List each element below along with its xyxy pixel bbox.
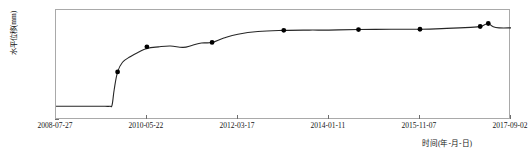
plot-area (55, 9, 510, 119)
x-tick-label: 2010-05-22 (103, 121, 189, 130)
x-tick-label: 2014-01-11 (285, 121, 371, 130)
displacement-line-chart (56, 10, 511, 120)
x-tick-mark (237, 115, 238, 119)
x-tick-label: 2017-09-02 (467, 121, 532, 130)
data-point-marker (478, 24, 483, 29)
data-point-marker (115, 69, 120, 74)
data-line-series (56, 23, 511, 106)
data-point-marker (486, 21, 491, 26)
x-tick-label: 2012-03-17 (194, 121, 280, 130)
data-point-marker (144, 44, 149, 49)
x-tick-label: 2015-11-07 (376, 121, 462, 130)
data-point-marker (210, 40, 215, 45)
y-axis-title: 水平位移(mm) (7, 0, 21, 73)
data-point-marker (356, 27, 361, 32)
x-tick-mark (419, 115, 420, 119)
x-tick-mark (328, 115, 329, 119)
x-axis-title: 时间(年-月-日) (392, 137, 502, 148)
x-tick-mark (510, 115, 511, 119)
x-tick-mark (146, 115, 147, 119)
data-point-marker (281, 28, 286, 33)
x-tick-label: 2008-07-27 (12, 121, 98, 130)
data-point-marker (418, 27, 423, 32)
